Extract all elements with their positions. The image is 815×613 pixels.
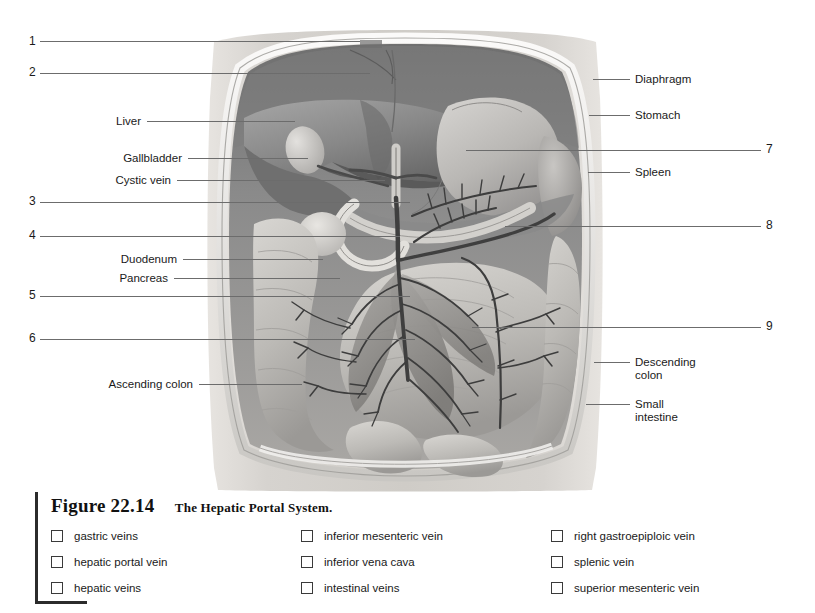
term-checkbox[interactable] [301,556,313,568]
callout-number-2[interactable]: 2 [29,66,36,78]
term-item[interactable]: hepatic veins [51,580,301,595]
callout-number-3[interactable]: 3 [29,195,36,207]
callout-label-diaphragm: Diaphragm [635,73,691,86]
callout-label-stomach: Stomach [635,109,680,122]
callout-number-8[interactable]: 8 [766,219,773,231]
callout-label-descending-colon: Descending colon [635,356,696,382]
term-item[interactable]: right gastroepiploic vein [551,528,795,543]
callout-number-9[interactable]: 9 [766,320,773,332]
term-checkbox[interactable] [301,582,313,594]
term-item[interactable]: inferior mesenteric vein [301,528,551,543]
term-label: superior mesenteric vein [574,582,699,594]
callout-number-6[interactable]: 6 [29,332,36,344]
term-checkbox[interactable] [301,530,313,542]
term-label: splenic vein [574,556,634,568]
figure-title: The Hepatic Portal System. [175,500,333,515]
term-checkbox[interactable] [551,582,563,594]
callout-label-spleen: Spleen [635,166,671,179]
callout-label-duodenum: Duodenum [56,253,177,266]
callout-number-5[interactable]: 5 [29,289,36,301]
term-checkbox[interactable] [51,556,63,568]
figure-page: 123456789LiverGallbladderCystic veinDuod… [0,0,815,613]
callout-number-7[interactable]: 7 [766,143,773,155]
callout-label-gallbladder: Gallbladder [56,152,182,165]
term-column-3: right gastroepiploic veinsplenic veinsup… [551,528,795,595]
figure-caption-block: Figure 22.14 The Hepatic Portal System. … [35,492,795,604]
term-column-2: inferior mesenteric veininferior vena ca… [301,528,551,595]
term-label: hepatic portal vein [74,556,167,568]
caption-foot-rule [35,601,87,604]
term-checkbox[interactable] [51,530,63,542]
caption-vertical-rule [35,492,38,604]
term-item[interactable]: hepatic portal vein [51,554,301,569]
callout-label-small-intestine: Small intestine [635,398,678,424]
callout-number-1[interactable]: 1 [29,35,36,47]
callout-label-cystic-vein: Cystic vein [56,174,171,187]
term-item[interactable]: intestinal veins [301,580,551,595]
term-label: right gastroepiploic vein [574,530,695,542]
term-column-1: gastric veinshepatic portal veinhepatic … [51,528,301,595]
term-label: inferior vena cava [324,556,415,568]
abdominal-cavity-illustration [200,28,610,493]
term-checkbox[interactable] [551,530,563,542]
term-item[interactable]: gastric veins [51,528,301,543]
term-item[interactable]: inferior vena cava [301,554,551,569]
term-label: gastric veins [74,530,138,542]
term-checklist: gastric veinshepatic portal veinhepatic … [51,528,795,595]
term-label: hepatic veins [74,582,141,594]
term-label: intestinal veins [324,582,399,594]
term-label: inferior mesenteric vein [324,530,443,542]
callout-label-ascending-colon: Ascending colon [56,378,193,391]
figure-number: Figure 22.14 [51,495,154,516]
callout-label-pancreas: Pancreas [56,272,168,285]
caption-line: Figure 22.14 The Hepatic Portal System. [51,495,332,517]
term-checkbox[interactable] [51,582,63,594]
term-item[interactable]: splenic vein [551,554,795,569]
term-checkbox[interactable] [551,556,563,568]
callout-number-4[interactable]: 4 [29,229,36,241]
term-item[interactable]: superior mesenteric vein [551,580,795,595]
callout-label-liver: Liver [56,115,141,128]
